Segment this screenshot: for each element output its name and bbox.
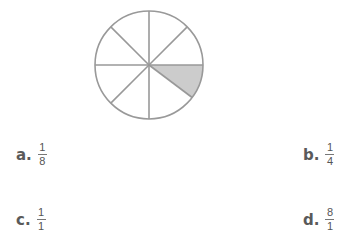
answer-option-a[interactable]: a. 1 8 — [16, 142, 47, 167]
option-letter: c. — [16, 211, 31, 229]
answer-option-d[interactable]: d. 8 1 — [303, 207, 334, 232]
numerator: 1 — [38, 142, 46, 153]
division-line-3 — [111, 65, 149, 103]
option-letter: a. — [16, 146, 32, 164]
fraction-circle-figure — [0, 0, 352, 130]
denominator: 4 — [326, 156, 334, 167]
division-line-7 — [149, 27, 187, 65]
option-letter: d. — [303, 211, 319, 229]
fraction: 1 1 — [37, 207, 46, 232]
numerator: 1 — [326, 142, 334, 153]
numerator: 1 — [37, 207, 45, 218]
fraction: 1 8 — [38, 142, 47, 167]
fraction: 1 4 — [325, 142, 334, 167]
denominator: 1 — [326, 221, 334, 232]
denominator: 1 — [37, 221, 45, 232]
answer-option-c[interactable]: c. 1 1 — [16, 207, 46, 232]
option-letter: b. — [303, 146, 319, 164]
fraction: 8 1 — [325, 207, 334, 232]
answer-option-b[interactable]: b. 1 4 — [303, 142, 334, 167]
denominator: 8 — [38, 156, 46, 167]
division-line-5 — [111, 27, 149, 65]
numerator: 8 — [326, 207, 334, 218]
